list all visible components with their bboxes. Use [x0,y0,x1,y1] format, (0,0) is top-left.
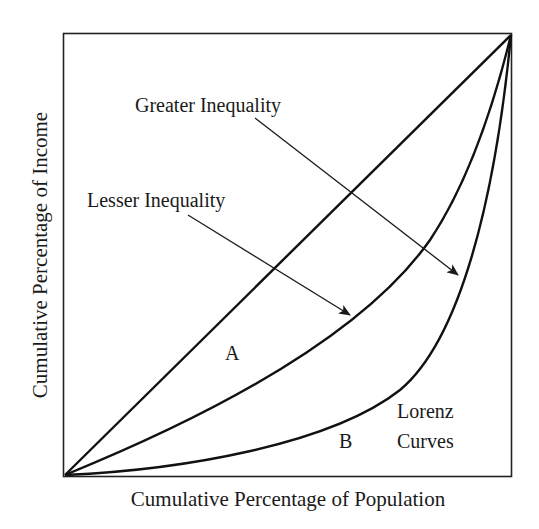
greater-inequality-label: Greater Inequality [135,94,281,117]
lorenz-curve-diagram: Greater Inequality Lesser Inequality A B… [0,0,539,529]
region-a-label: A [225,342,240,364]
x-axis-label: Cumulative Percentage of Population [131,487,446,511]
lorenz-label-line2: Curves [397,430,454,452]
lesser-inequality-label: Lesser Inequality [87,189,225,212]
greater-inequality-arrow [255,118,458,275]
lorenz-label-line1: Lorenz [397,400,454,422]
y-axis-label: Cumulative Percentage of Income [28,112,52,398]
lesser-inequality-arrow [188,215,350,315]
region-b-label: B [339,430,352,452]
